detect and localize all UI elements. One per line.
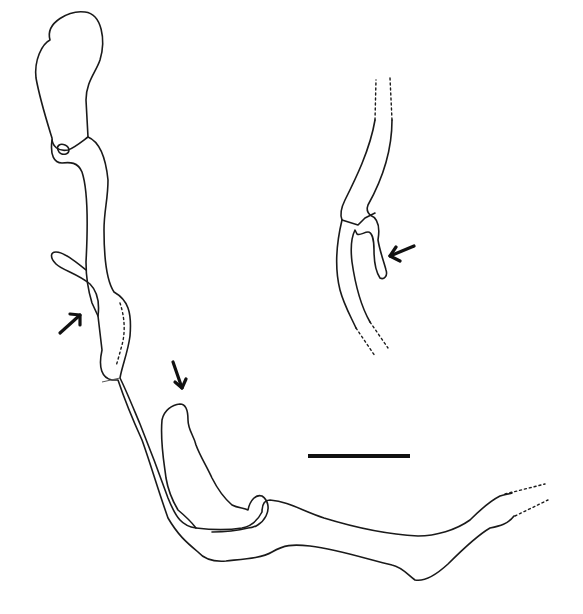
arrow-icon (60, 314, 80, 333)
tube-left-wall (51, 140, 514, 580)
inset-right-wall-upper (367, 120, 392, 215)
inset-dashed-top-right (390, 78, 392, 120)
tube-end-dashed-upper (505, 484, 545, 494)
inset-dashed-bottom-right (370, 322, 388, 348)
tube-end-dashed-lower (515, 500, 548, 516)
inset-structure (337, 78, 392, 356)
inset-diverticulum (351, 215, 386, 322)
main-structure (36, 12, 548, 581)
arrow-icon (390, 246, 414, 261)
tube-right-wall (88, 137, 512, 536)
inset-dashed-top-left (375, 80, 376, 120)
diverticulum-lower-right (161, 404, 268, 532)
diverticulum-upper-left (52, 252, 99, 316)
arrows (60, 246, 414, 388)
figure-canvas (0, 0, 583, 614)
arrow-icon (173, 362, 186, 388)
inset-dashed-bottom-left (356, 328, 375, 356)
diverticulum-upper-dashed-margin (116, 303, 124, 366)
inset-left-wall-upper (341, 120, 375, 220)
terminal-bulb (36, 12, 103, 151)
